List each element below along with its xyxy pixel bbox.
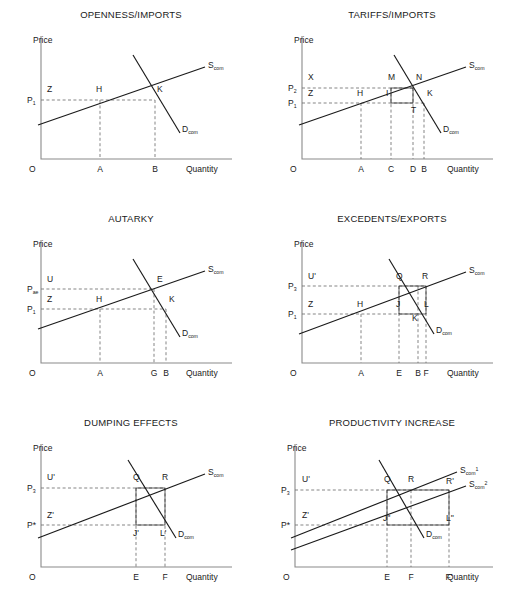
chart-excedents-exports: EXCEDENTS/EXPORTSPriceQuantityOScomDcomP… (261, 204, 523, 404)
quantity-tick-label: B (415, 368, 421, 378)
price-tick-label: P3 (27, 483, 36, 494)
chart-axes (41, 36, 232, 159)
origin-label: O (29, 368, 36, 378)
point-label: L'' (446, 513, 454, 523)
price-axis-label: Price (33, 239, 53, 249)
point-label: J' (133, 528, 139, 538)
hatched-region (136, 488, 165, 525)
point-label: N (416, 72, 422, 82)
point-label: H (96, 294, 102, 304)
quantity-tick-label: B (152, 164, 158, 174)
price-axis-label: Price (294, 239, 314, 249)
point-label: R (422, 271, 428, 281)
demand-curve (379, 460, 424, 538)
quantity-tick-label: F (162, 572, 167, 582)
price-tick-label: Pae (27, 284, 39, 295)
chart-axes (295, 444, 493, 567)
quantity-axis-label: Quantity (186, 164, 218, 174)
price-tick-label: P3 (288, 281, 297, 292)
quantity-tick-label: E (384, 572, 390, 582)
quantity-axis-label: Quantity (447, 368, 479, 378)
origin-label: O (290, 164, 297, 174)
chart-productivity-increase: PRODUCTIVITY INCREASEPriceQuantityOScom1… (261, 408, 523, 608)
demand-curve-label: Dcom (426, 529, 442, 540)
supply-curve-label: Scom (469, 265, 484, 276)
point-label: R (162, 472, 168, 482)
supply-curve-label: Scom2 (469, 479, 487, 490)
quantity-tick-label: A (97, 368, 103, 378)
quantity-tick-label: F (423, 368, 428, 378)
supply-curve-label: Scom (469, 60, 484, 71)
quantity-tick-label: B (163, 368, 169, 378)
demand-curve-label: Dcom (436, 325, 452, 336)
price-axis-label: Price (287, 443, 307, 453)
point-label: U (47, 274, 53, 284)
chart-title: OPENNESS/IMPORTS (80, 9, 182, 20)
chart-svg-tariffs-imports: TARIFFS/IMPORTSPriceQuantityOScomDcomP2P… (261, 0, 523, 200)
price-tick-label: P2 (288, 83, 297, 94)
hatched-region (391, 88, 413, 103)
quantity-tick-label: G (151, 368, 158, 378)
chart-svg-dumping-effects: DUMPING EFFECTSPriceQuantityOScomDcomP3P… (0, 408, 262, 608)
price-tick-label: P1 (288, 309, 297, 320)
price-axis-label: Price (33, 35, 53, 45)
point-label: H (96, 84, 102, 94)
supply-curve (291, 486, 466, 550)
demand-curve-label: Dcom (182, 124, 198, 135)
chart-axes (41, 444, 232, 567)
price-axis-label: Price (33, 443, 53, 453)
point-label: Z (308, 88, 313, 98)
demand-curve (133, 55, 180, 133)
quantity-tick-label: A (358, 368, 364, 378)
chart-dumping-effects: DUMPING EFFECTSPriceQuantityOScomDcomP3P… (0, 408, 262, 608)
quantity-axis-label: Quantity (447, 164, 479, 174)
origin-label: O (283, 572, 290, 582)
point-label: K (157, 84, 163, 94)
chart-svg-openness-imports: OPENNESS/IMPORTSPriceQuantityOScomDcomP1… (0, 0, 262, 200)
chart-title: EXCEDENTS/EXPORTS (337, 213, 446, 224)
point-label: Q (396, 271, 403, 281)
chart-svg-excedents-exports: EXCEDENTS/EXPORTSPriceQuantityOScomDcomP… (261, 204, 523, 404)
point-label: U' (302, 474, 310, 484)
point-label: L' (160, 528, 167, 538)
point-label: Z' (47, 510, 54, 520)
quantity-tick-label: E (396, 368, 402, 378)
chart-svg-autarky: AUTARKYPriceQuantityOScomDcomPaeP1AGBUZH… (0, 204, 262, 404)
chart-axes (302, 36, 493, 159)
chart-title: DUMPING EFFECTS (84, 417, 178, 428)
chart-openness-imports: OPENNESS/IMPORTSPriceQuantityOScomDcomP1… (0, 0, 262, 200)
quantity-tick-label: C (388, 164, 394, 174)
supply-curve-label: Scom (208, 264, 223, 275)
supply-curve (38, 271, 205, 329)
point-label: X (308, 72, 314, 82)
price-tick-label: P1 (27, 95, 36, 106)
point-label: L (424, 299, 429, 309)
supply-curve (38, 67, 205, 125)
point-label: T (411, 105, 416, 115)
point-label: Z (308, 299, 313, 309)
origin-label: O (290, 368, 297, 378)
quantity-tick-label: A (97, 164, 103, 174)
chart-axes (41, 240, 232, 363)
price-tick-label: P3 (281, 485, 290, 496)
demand-curve-label: Dcom (443, 124, 459, 135)
point-label: K (169, 294, 175, 304)
point-label: R' (446, 476, 454, 486)
price-tick-label: P1 (288, 98, 297, 109)
demand-curve-label: Dcom (178, 529, 194, 540)
price-tick-label: P* (27, 520, 37, 530)
quantity-tick-label: F' (446, 572, 453, 582)
quantity-tick-label: D (410, 164, 416, 174)
supply-curve-label: Scom1 (460, 465, 478, 476)
demand-curve-label: Dcom (182, 328, 198, 339)
chart-tariffs-imports: TARIFFS/IMPORTSPriceQuantityOScomDcomP2P… (261, 0, 523, 200)
hatched-region (399, 286, 426, 314)
supply-curve (299, 67, 466, 125)
figure-sheet: OPENNESS/IMPORTSPriceQuantityOScomDcomP1… (0, 0, 523, 611)
origin-label: O (29, 572, 36, 582)
demand-curve (394, 55, 441, 133)
point-label: M (388, 72, 395, 82)
chart-svg-productivity-increase: PRODUCTIVITY INCREASEPriceQuantityOScom1… (261, 408, 523, 608)
price-tick-label: P* (281, 520, 291, 530)
chart-title: AUTARKY (108, 213, 154, 224)
